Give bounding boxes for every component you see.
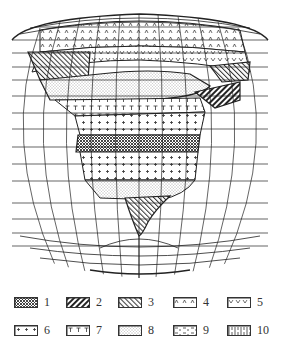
polar-cap-south <box>20 236 260 278</box>
zone-pattern-3-tail <box>125 196 170 236</box>
pattern-swatch-9 <box>173 325 197 336</box>
legend-item-9: 9 <box>173 323 209 337</box>
pattern-swatch-2 <box>66 297 90 308</box>
legend-item-2: 2 <box>66 295 102 309</box>
legend-item-1: 1 <box>14 295 50 309</box>
pattern-swatch-4 <box>173 297 197 308</box>
thematic-globe-map <box>0 0 281 285</box>
pattern-swatch-5 <box>227 297 251 308</box>
legend-item-5: 5 <box>227 295 263 309</box>
legend-label: 8 <box>148 323 154 338</box>
legend-label: 4 <box>203 295 209 310</box>
legend-label: 7 <box>96 323 102 338</box>
legend: 1 2 3 4 5 6 7 8 9 10 <box>0 290 281 350</box>
legend-label: 9 <box>203 323 209 338</box>
pattern-swatch-6 <box>14 325 38 336</box>
legend-item-8: 8 <box>118 323 154 337</box>
pattern-swatch-1 <box>14 297 38 308</box>
legend-label: 1 <box>44 295 50 310</box>
zone-pattern-1 <box>76 135 200 152</box>
pattern-swatch-10 <box>227 325 251 336</box>
pattern-swatch-3 <box>118 297 142 308</box>
legend-item-4: 4 <box>173 295 209 309</box>
zone-pattern-6-upper <box>75 112 205 135</box>
pattern-swatch-7 <box>66 325 90 336</box>
legend-label: 10 <box>257 323 269 338</box>
legend-label: 6 <box>44 323 50 338</box>
legend-label: 3 <box>148 295 154 310</box>
pattern-swatch-8 <box>118 325 142 336</box>
legend-label: 2 <box>96 295 102 310</box>
legend-item-7: 7 <box>66 323 102 337</box>
legend-label: 5 <box>257 295 263 310</box>
legend-item-10: 10 <box>227 323 269 337</box>
legend-item-3: 3 <box>118 295 154 309</box>
legend-item-6: 6 <box>14 323 50 337</box>
